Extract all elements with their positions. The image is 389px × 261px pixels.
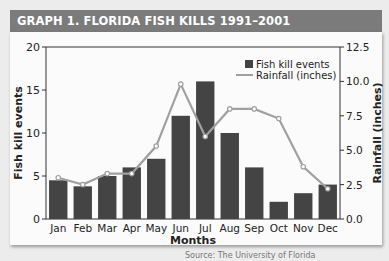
right-tick-label: 2.5 <box>346 179 363 191</box>
right-tick-label: 12.5 <box>346 41 369 53</box>
x-axis-ticks: JanFebMarAprMayJunJulAugSepOctNovDec <box>49 222 338 234</box>
x-tick-label: Oct <box>270 222 288 234</box>
x-tick-label: Apr <box>123 222 142 234</box>
x-axis-label: Months <box>170 234 216 247</box>
rainfall-marker-sep <box>252 107 256 111</box>
x-tick-label: Jul <box>198 222 212 234</box>
rainfall-marker-feb <box>81 182 85 186</box>
left-tick-label: 15 <box>26 84 40 97</box>
left-tick-label: 20 <box>26 41 40 54</box>
x-tick-label: Jun <box>172 222 189 234</box>
x-tick-label: Jan <box>49 222 66 234</box>
x-tick-label: Sep <box>244 222 264 234</box>
left-tick-label: 5 <box>33 170 40 183</box>
left-axis-ticks: 05101520 <box>26 41 46 226</box>
x-tick-label: Mar <box>97 222 117 234</box>
y-axis-label: Fish kill events <box>12 86 25 180</box>
bar-oct <box>270 202 288 219</box>
rainfall-marker-oct <box>277 116 281 120</box>
y2-axis-label: Rainfall (inches) <box>371 82 384 183</box>
left-tick-label: 10 <box>26 127 40 140</box>
x-tick-label: Nov <box>293 222 314 234</box>
rainfall-marker-jan <box>56 176 60 180</box>
line-series-rainfall <box>56 82 330 191</box>
rainfall-marker-jun <box>179 82 183 86</box>
right-tick-label: 0.0 <box>346 213 363 225</box>
x-tick-label: Dec <box>318 222 339 234</box>
bar-jul <box>196 81 214 219</box>
x-tick-label: May <box>145 222 167 234</box>
bar-sep <box>245 167 263 219</box>
rainfall-marker-jul <box>203 134 207 138</box>
rainfall-marker-aug <box>228 107 232 111</box>
right-tick-label: 10.0 <box>346 75 369 87</box>
legend-bar-swatch <box>245 60 253 68</box>
rainfall-marker-may <box>154 144 158 148</box>
legend-label-fish-kill-events: Fish kill events <box>256 59 330 70</box>
x-tick-label: Aug <box>219 222 240 234</box>
bar-jan <box>49 180 67 219</box>
bar-may <box>147 159 165 219</box>
x-tick-label: Feb <box>73 222 92 234</box>
legend: Fish kill events Rainfall (inches) <box>236 59 337 81</box>
right-axis-ticks: 0.02.55.07.510.012.5 <box>340 41 369 225</box>
rainfall-marker-dec <box>326 187 330 191</box>
bar-mar <box>98 176 116 219</box>
rainfall-line <box>58 84 328 189</box>
source-caption: Source: The University of Florida <box>185 251 316 260</box>
right-tick-label: 7.5 <box>346 110 363 122</box>
right-tick-label: 5.0 <box>346 144 363 156</box>
fish-kills-chart: 05101520 0.02.55.07.510.012.5 JanFebMarA… <box>0 0 389 261</box>
bar-aug <box>221 133 239 219</box>
legend-label-rainfall: Rainfall (inches) <box>256 70 337 81</box>
bar-jun <box>172 116 190 219</box>
bar-nov <box>294 193 312 219</box>
rainfall-marker-nov <box>301 165 305 169</box>
bar-feb <box>74 186 92 219</box>
left-tick-label: 0 <box>33 213 40 226</box>
rainfall-marker-apr <box>130 171 134 175</box>
rainfall-marker-mar <box>105 171 109 175</box>
